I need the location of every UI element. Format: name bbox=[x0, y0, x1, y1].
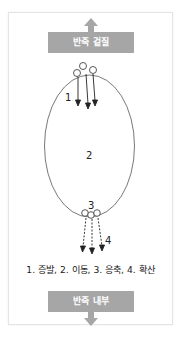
step-4-label: 4 bbox=[105, 235, 111, 246]
legend-text: 1. 증발, 2. 이동, 3. 응축, 4. 확산 bbox=[0, 262, 181, 276]
step-1-label: 1 bbox=[65, 92, 71, 103]
step-3-label: 3 bbox=[88, 200, 94, 211]
dough-interior-label: 반죽 내부 bbox=[48, 291, 134, 312]
evaporation-arrows bbox=[76, 74, 98, 109]
down-arrow-icon bbox=[84, 311, 98, 326]
up-arrow-icon bbox=[84, 18, 98, 33]
step-2-label: 2 bbox=[86, 150, 92, 161]
dough-surface-label: 반죽 겉질 bbox=[48, 32, 134, 53]
diffusion-arrows bbox=[81, 218, 105, 254]
dough-ellipse bbox=[45, 75, 135, 217]
